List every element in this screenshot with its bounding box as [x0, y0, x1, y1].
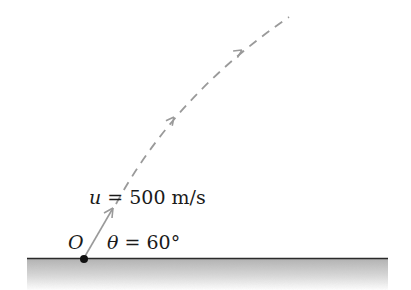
trajectory-path: [116, 17, 289, 204]
ground-texture: [27, 258, 388, 290]
diagram-canvas: [0, 0, 411, 290]
trajectory-arrow-icon: [166, 115, 177, 126]
angle-symbol: θ: [107, 231, 118, 253]
velocity-symbol: u: [89, 186, 101, 208]
trajectory: [116, 17, 289, 204]
origin-point: [80, 255, 88, 263]
ground: [27, 258, 388, 290]
velocity-label: u = 500 m/s: [89, 188, 206, 207]
projectile-diagram: u = 500 m/s O θ = 60°: [0, 0, 411, 290]
velocity-value: = 500 m/s: [101, 186, 205, 208]
origin-label: O: [68, 233, 84, 252]
angle-label: θ = 60°: [107, 233, 180, 252]
angle-value: = 60°: [118, 231, 180, 253]
